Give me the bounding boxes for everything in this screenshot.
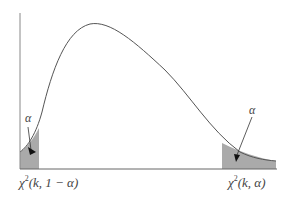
chi-square-diagram: α α χ2(k, 1 − α) χ2(k, α) bbox=[0, 0, 293, 204]
left-critical-label: χ2(k, 1 − α) bbox=[17, 174, 78, 190]
density-curve bbox=[20, 24, 276, 161]
left-alpha-label: α bbox=[25, 111, 32, 125]
right-alpha-arrow bbox=[237, 117, 252, 155]
right-critical-label: χ2(k, α) bbox=[226, 174, 266, 190]
right-alpha-label: α bbox=[249, 103, 256, 117]
